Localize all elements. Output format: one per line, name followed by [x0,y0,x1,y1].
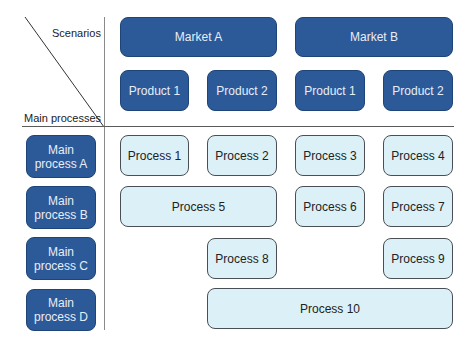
main-process-a-box: Main process A [26,135,96,178]
product-label: Product 1 [129,84,180,98]
market-a-label: Market A [175,30,222,44]
market-a-product-2-box: Product 2 [207,70,277,111]
main-process-c-box: Main process C [26,237,96,280]
market-a-product-1-box: Product 1 [120,70,189,111]
scenarios-label: Scenarios [52,27,101,39]
product-label: Product 2 [216,84,267,98]
process-label: Process 4 [391,149,444,163]
main-process-line: Main [48,245,74,259]
process-6-box: Process 6 [295,186,365,227]
process-9-box: Process 9 [383,238,453,279]
main-process-line: process D [34,310,88,324]
main-process-line: process B [34,208,87,222]
process-label: Process 9 [391,252,444,266]
product-label: Product 2 [392,84,443,98]
process-label: Process 6 [303,200,356,214]
process-3-box: Process 3 [295,135,365,176]
process-label: Process 1 [128,149,181,163]
process-2-box: Process 2 [207,135,277,176]
process-label: Process 8 [215,252,268,266]
main-process-line: Main [48,296,74,310]
process-label: Process 3 [303,149,356,163]
horizontal-divider [22,126,454,127]
market-b-product-2-box: Product 2 [383,70,453,111]
market-b-label: Market B [350,30,398,44]
vertical-divider [104,17,105,330]
main-process-d-box: Main process D [26,289,96,331]
process-7-box: Process 7 [383,186,453,227]
market-a-box: Market A [120,17,277,57]
main-process-line: Main [48,143,74,157]
main-processes-label: Main processes [24,112,101,124]
process-1-box: Process 1 [120,135,189,176]
process-label: Process 5 [172,200,225,214]
process-label: Process 10 [300,302,360,316]
process-label: Process 7 [391,200,444,214]
process-4-box: Process 4 [383,135,453,176]
main-process-line: Main [48,194,74,208]
market-b-box: Market B [295,17,453,57]
main-process-b-box: Main process B [26,186,96,229]
market-b-product-1-box: Product 1 [295,70,365,111]
main-process-line: process C [34,259,88,273]
product-label: Product 1 [304,84,355,98]
main-process-line: process A [35,157,88,171]
process-label: Process 2 [215,149,268,163]
process-10-box: Process 10 [207,288,453,329]
process-8-box: Process 8 [207,238,277,279]
process-5-box: Process 5 [120,186,277,227]
